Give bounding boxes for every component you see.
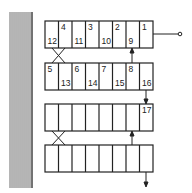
cell-number: 9 (129, 36, 134, 46)
register-diagram: 1241131029151361471581617 (0, 0, 192, 193)
cell-number: 8 (129, 64, 134, 74)
cell-number: 14 (88, 78, 98, 88)
cell-number: 2 (115, 22, 120, 32)
cell-number: 3 (88, 22, 93, 32)
hatched-wall (10, 12, 32, 188)
cell-number: 4 (61, 22, 66, 32)
cell-number: 13 (61, 78, 71, 88)
cell-number: 12 (48, 36, 58, 46)
cell-number: 6 (75, 64, 80, 74)
cell-number: 17 (142, 105, 152, 115)
cell-number: 11 (75, 36, 84, 46)
cell-number: 7 (102, 64, 107, 74)
cell-number: 16 (142, 78, 152, 88)
cell-number: 1 (142, 22, 147, 32)
cell-number: 5 (48, 64, 53, 74)
cell-number: 10 (102, 36, 112, 46)
cell-number: 15 (115, 78, 125, 88)
